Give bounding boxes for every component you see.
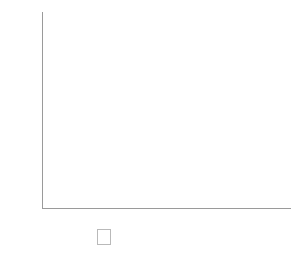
stacked-bar-chart <box>0 0 299 256</box>
plot-area <box>43 12 290 208</box>
x-axis-line <box>42 208 291 209</box>
y-axis-line <box>42 12 43 209</box>
chart-legend <box>97 229 111 245</box>
